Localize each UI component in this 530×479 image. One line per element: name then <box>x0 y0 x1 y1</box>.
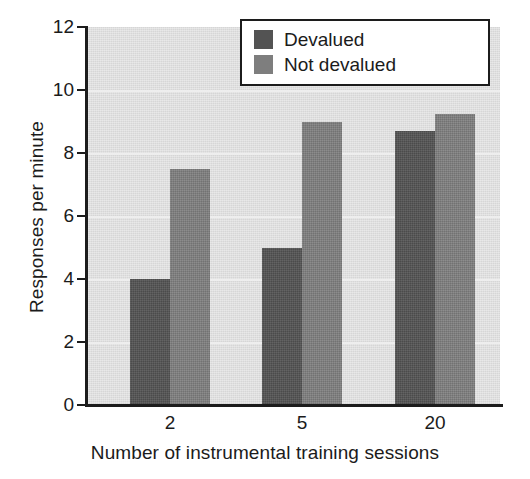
bar <box>170 169 210 405</box>
y-axis-tick-labels: 024681012 <box>0 0 74 479</box>
legend-swatch-devalued <box>254 30 273 49</box>
y-axis-tick-mark <box>77 341 86 343</box>
bar-chart-figure: Responses per minute 024681012 2520 Numb… <box>0 0 530 479</box>
gridline <box>88 90 500 92</box>
y-axis-tick-mark <box>77 26 86 28</box>
legend-label: Not devalued <box>284 55 396 74</box>
legend-swatch-not-devalued <box>254 55 273 74</box>
y-axis-tick-label: 0 <box>4 394 74 416</box>
y-axis-tick-label: 2 <box>4 331 74 353</box>
y-axis-tick-label: 6 <box>4 205 74 227</box>
legend-item: Not devalued <box>254 52 476 77</box>
x-axis-title: Number of instrumental training sessions <box>0 442 530 464</box>
x-axis-tick-label: 2 <box>125 412 215 434</box>
y-axis-tick-label: 10 <box>4 79 74 101</box>
y-axis-tick-label: 8 <box>4 142 74 164</box>
x-axis-line <box>85 404 503 407</box>
y-axis-tick-mark <box>77 278 86 280</box>
legend-label: Devalued <box>284 30 364 49</box>
x-axis-tick-label: 20 <box>390 412 480 434</box>
bar <box>395 131 435 405</box>
y-axis-tick-mark <box>77 215 86 217</box>
bar <box>435 114 475 405</box>
y-axis-tick-mark <box>77 404 86 406</box>
y-axis-tick-label: 4 <box>4 268 74 290</box>
bar <box>130 279 170 405</box>
y-axis-tick-label: 12 <box>4 16 74 38</box>
x-axis-tick-label: 5 <box>257 412 347 434</box>
y-axis-tick-mark <box>77 89 86 91</box>
y-axis-tick-mark <box>77 152 86 154</box>
bar <box>302 122 342 406</box>
legend-item: Devalued <box>254 27 476 52</box>
bar <box>262 248 302 406</box>
chart-legend: Devalued Not devalued <box>240 19 490 86</box>
